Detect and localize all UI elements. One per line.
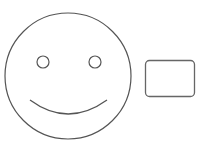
rounded-rectangle <box>146 61 195 97</box>
smile-mouth <box>30 100 107 114</box>
left-eye <box>37 56 49 68</box>
right-eye <box>89 56 101 68</box>
diagram-canvas <box>0 0 211 144</box>
face-circle <box>5 13 131 139</box>
